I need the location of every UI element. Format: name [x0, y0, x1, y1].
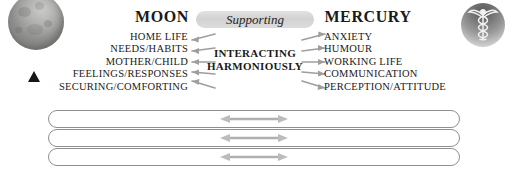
list-item: SECURING/COMFORTING [40, 81, 188, 93]
list-item: NEEDS/HABITS [40, 43, 188, 55]
center-label-line1: INTERACTING [200, 47, 310, 60]
center-label-line2: HARMONIOUSLY [200, 60, 310, 73]
list-item: WORKING LIFE [324, 56, 496, 68]
table-row [48, 148, 460, 166]
aspect-pill-label: Supporting [226, 12, 284, 28]
triangle-marker [28, 71, 40, 82]
bottom-row-list [48, 110, 460, 167]
list-item: HOME LIFE [40, 31, 188, 43]
aspect-pill: Supporting [196, 11, 314, 28]
mercury-title: MERCURY [316, 8, 420, 26]
list-item: HUMOUR [324, 43, 496, 55]
double-arrow-icon [218, 133, 290, 144]
list-item: PERCEPTION/ATTITUDE [324, 81, 496, 93]
list-item: ANXIETY [324, 31, 496, 43]
list-item: FEELINGS/RESPONSES [40, 68, 188, 80]
header-row: MOON Supporting MERCURY [0, 8, 514, 30]
mercury-keyword-list: ANXIETY HUMOUR WORKING LIFE COMMUNICATIO… [324, 31, 496, 93]
moon-keyword-list: HOME LIFE NEEDS/HABITS MOTHER/CHILD FEEL… [40, 31, 188, 93]
double-arrow-icon [218, 114, 290, 125]
moon-title: MOON [126, 8, 198, 26]
list-item: COMMUNICATION [324, 68, 496, 80]
table-row [48, 110, 460, 128]
table-row [48, 129, 460, 147]
list-item: MOTHER/CHILD [40, 56, 188, 68]
double-arrow-icon [218, 152, 290, 163]
center-label: INTERACTING HARMONIOUSLY [200, 47, 310, 73]
